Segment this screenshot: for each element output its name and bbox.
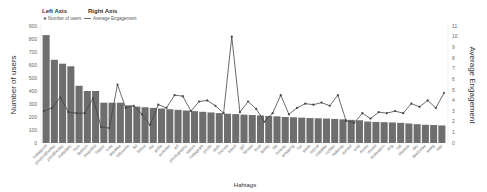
right-axis-tick: 6 [452,76,455,82]
line-point[interactable] [51,107,53,109]
bar[interactable] [339,119,346,143]
line-point[interactable] [67,111,69,113]
line-point[interactable] [288,113,290,115]
line-point[interactable] [386,112,388,114]
bar[interactable] [84,91,91,143]
bar[interactable] [166,109,173,143]
bar[interactable] [364,122,371,143]
line-point[interactable] [84,112,86,114]
line-point[interactable] [149,124,151,126]
bar[interactable] [158,109,165,143]
line-point[interactable] [43,110,45,112]
line-point[interactable] [443,92,445,94]
bar[interactable] [397,123,404,143]
bar[interactable] [199,112,206,143]
bar[interactable] [109,103,116,143]
bar[interactable] [125,105,132,143]
bar[interactable] [290,117,297,143]
line-point[interactable] [108,127,110,129]
bar[interactable] [249,115,256,143]
bar[interactable] [183,111,190,144]
line-point[interactable] [435,107,437,109]
bar[interactable] [240,115,247,143]
line-point[interactable] [296,107,298,109]
combo-chart: Left Axis Right Axis Number of users Ave… [0,0,487,192]
line-point[interactable] [304,103,306,105]
line-point[interactable] [255,108,257,110]
line-point[interactable] [320,101,322,103]
bar[interactable] [381,122,388,143]
line-point[interactable] [263,121,265,123]
legend-left-item: Number of users [48,16,82,21]
bar[interactable] [216,113,223,143]
right-axis-title: Average Engagement [468,46,477,124]
left-axis-tick: 600 [29,62,38,68]
line-point[interactable] [280,94,282,96]
line-point[interactable] [247,100,249,102]
line-point[interactable] [116,83,118,85]
bar[interactable] [430,125,437,143]
bar[interactable] [405,124,412,144]
line-point[interactable] [214,105,216,107]
line-point[interactable] [369,117,371,119]
bar[interactable] [323,119,330,143]
line-point[interactable] [271,112,273,114]
line-point[interactable] [100,126,102,128]
line-point[interactable] [361,112,363,114]
bar[interactable] [207,112,214,143]
line-point[interactable] [76,112,78,114]
line-point[interactable] [231,36,233,38]
line-point[interactable] [92,97,94,99]
line-point[interactable] [59,96,61,98]
line-point[interactable] [157,104,159,106]
bar[interactable] [315,118,322,143]
line-point[interactable] [198,100,200,102]
bar[interactable] [282,117,289,143]
bar[interactable] [372,122,379,143]
bar[interactable] [142,107,149,143]
bar[interactable] [273,116,280,143]
x-axis-labels: instagoodphotoofthedaypicofthedayinstada… [31,142,444,165]
line-point[interactable] [174,94,176,96]
bar[interactable] [422,125,429,143]
bar[interactable] [356,120,363,143]
line-point[interactable] [182,95,184,97]
bar[interactable] [76,86,83,143]
line-point[interactable] [222,112,224,114]
bar[interactable] [298,118,305,143]
line-point[interactable] [141,113,143,115]
bar[interactable] [117,103,124,143]
bar[interactable] [67,66,74,143]
line-point[interactable] [329,105,331,107]
bar[interactable] [224,114,231,143]
line-point[interactable] [378,111,380,113]
bar[interactable] [100,103,107,143]
bar[interactable] [175,110,182,143]
line-point[interactable] [190,110,192,112]
bar[interactable] [306,118,313,143]
line-point[interactable] [125,107,127,109]
bar[interactable] [331,119,338,143]
bar[interactable] [232,114,239,143]
bar[interactable] [59,64,66,143]
line-point[interactable] [410,103,412,105]
line-point[interactable] [337,94,339,96]
line-point[interactable] [239,111,241,113]
bar[interactable] [414,124,421,143]
bar[interactable] [43,35,50,143]
line-point[interactable] [312,104,314,106]
line-point[interactable] [418,106,420,108]
left-axis-tick: 700 [29,49,38,55]
bar[interactable] [389,122,396,143]
bar-series [43,35,446,143]
line-point[interactable] [345,120,347,122]
bar[interactable] [438,125,445,143]
line-point[interactable] [427,99,429,101]
line-point[interactable] [133,105,135,107]
line-point[interactable] [394,110,396,112]
line-point[interactable] [353,122,355,124]
line-point[interactable] [206,99,208,101]
bar[interactable] [191,111,198,143]
line-point[interactable] [165,107,167,109]
line-point[interactable] [402,112,404,114]
